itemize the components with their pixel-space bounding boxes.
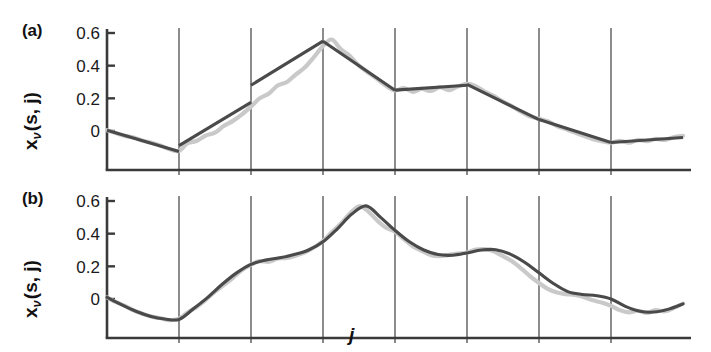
panel-a: (a) xν(s, j) 0.6 0.4 0.2 0 [0, 0, 711, 176]
panel-b: (b) xν(s, j) 0.6 0.4 0.2 0 j [0, 176, 711, 352]
fit-segment-3 [323, 41, 395, 90]
fit-segment-5 [467, 84, 539, 119]
panel-b-plot [0, 176, 711, 352]
fit-segment-0 [107, 130, 179, 151]
fit-segment-2 [251, 41, 323, 85]
fit-segment-1 [179, 102, 251, 145]
fit-segment-6 [539, 120, 611, 143]
gridlines [179, 28, 611, 170]
figure-container: (a) xν(s, j) 0.6 0.4 0.2 0 (b) xν(s, j) … [0, 0, 711, 352]
x-axis-label: j [349, 324, 354, 346]
panel-a-plot [0, 0, 711, 176]
